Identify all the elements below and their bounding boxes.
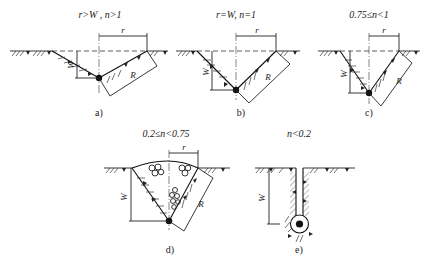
radius-label: r [121,25,125,35]
panel-c-condition: 0.75≤n<1 [349,9,389,20]
rupture-radius-dimension [249,64,290,103]
panel-b: r=W, n=1 r W R b) [176,9,300,119]
panel-b-condition: r=W, n=1 [216,9,256,20]
wall-hatch [345,58,395,92]
panel-b-caption: b) [237,107,245,119]
panel-e-condition: n<0.2 [287,128,311,139]
panel-a-condition: r>W , n>1 [78,9,121,20]
depth-label: W [339,69,349,78]
blasting-crater-diagram: r>W , n>1 r [0,0,427,264]
panel-a: r>W , n>1 r [10,9,168,119]
panel-c: 0.75≤n<1 r W R c) [318,9,420,119]
panel-a-caption: a) [95,107,103,119]
ground-hatch [402,51,418,56]
rupture-radius-label: R [395,76,402,86]
panel-d: 0.2≤n<0.75 r [104,128,230,256]
ground-hatch [280,51,297,56]
rupture-radius-label: R [264,72,271,82]
panel-c-caption: c) [365,107,373,119]
rupture-radius-label: R [129,70,136,80]
radius-label: r [382,25,386,35]
depth-label: W [257,193,267,202]
shaft-hatch-right [303,172,309,216]
shaft-hatch-left [290,172,296,216]
ground-hatch [320,51,338,56]
crater-wall-right [99,51,147,78]
ground-hatch [106,168,126,173]
ground-hatch [204,168,225,173]
panel-d-condition: 0.2≤n<0.75 [142,128,189,139]
wall-hatch [137,178,197,213]
ground-hatch [12,51,51,56]
rock-fragments [149,164,191,209]
depth-label: W [119,192,129,201]
mound-surface [132,161,198,168]
rupture-radius-label: R [197,199,204,209]
panel-e: n<0.2 W e) [255,128,355,256]
charge-icon [296,220,303,227]
radius-label: r [182,142,186,152]
diagram-canvas: r>W , n>1 r [0,0,427,264]
panel-d-caption: d) [166,244,174,256]
ground-hatch [150,51,167,56]
panel-e-caption: e) [295,244,303,256]
depth-label: W [201,67,211,76]
radius-label: r [255,25,259,35]
ground-hatch [178,51,195,56]
wall-hatch [203,58,270,90]
